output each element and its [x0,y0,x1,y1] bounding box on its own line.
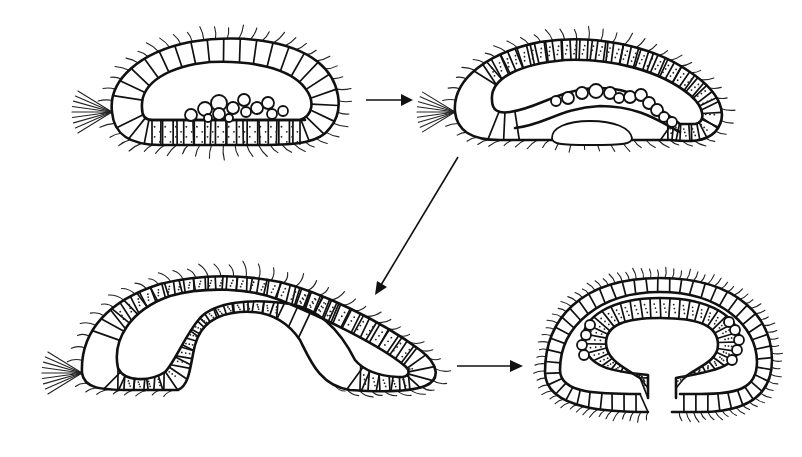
arrow-stage3-to-stage4 [457,360,523,372]
stage-2-figure [417,26,735,152]
diagram-svg [0,0,802,457]
stage-4-figure [534,267,783,422]
arrow-stage2-to-stage3 [375,157,458,295]
stage-1-figure [72,25,352,160]
arrow-stage1-to-stage2 [366,94,413,106]
stage-3-figure [42,261,451,397]
diagram-canvas [0,0,802,457]
